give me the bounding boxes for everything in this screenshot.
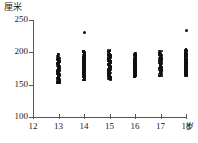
data-point-outlier: [185, 29, 188, 32]
data-point: [109, 50, 111, 52]
data-point: [109, 53, 111, 55]
data-point: [161, 50, 163, 52]
plot-area: [0, 0, 198, 143]
data-point-outlier: [83, 31, 86, 34]
data-point: [159, 50, 161, 52]
data-point: [160, 52, 162, 54]
scatter-chart-figure: 厘米 100150200250 12131415161718 岁: [0, 0, 198, 143]
